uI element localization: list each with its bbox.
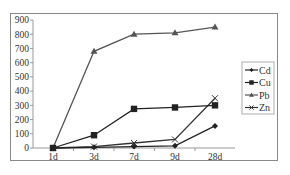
x-tick-label: 7d [129, 152, 139, 162]
square-marker-icon [172, 104, 178, 110]
line-chart: 0100200300400500600700800900 1d3d7d9d28d… [0, 0, 290, 175]
x-tick-label: 1d [48, 152, 58, 162]
x-tick-label: 28d [208, 152, 223, 162]
legend-label: Cd [259, 65, 271, 76]
y-axis: 0100200300400500600700800900 [15, 15, 33, 153]
square-marker-icon [249, 80, 253, 84]
legend-label: Cu [259, 77, 271, 88]
square-marker-icon [91, 132, 97, 138]
y-tick-label: 800 [15, 30, 30, 40]
x-marker-icon [212, 95, 218, 101]
y-tick-label: 200 [15, 115, 30, 125]
square-marker-icon [212, 102, 218, 108]
triangle-marker-icon [212, 24, 219, 30]
legend-label: Pb [259, 90, 270, 101]
diamond-marker-icon [212, 123, 218, 129]
series-zn [50, 95, 218, 151]
square-marker-icon [50, 145, 56, 151]
y-tick-label: 100 [15, 129, 30, 139]
x-axis: 1d3d7d9d28d [33, 148, 235, 162]
series-layer [50, 24, 219, 152]
y-tick-label: 0 [24, 143, 29, 153]
square-marker-icon [131, 106, 137, 112]
series-pb [50, 24, 219, 151]
y-tick-label: 900 [15, 15, 30, 25]
legend: CdCuPbZn [242, 62, 274, 114]
x-tick-label: 3d [89, 152, 99, 162]
y-tick-label: 600 [15, 58, 30, 68]
y-tick-label: 400 [15, 86, 30, 96]
diamond-marker-icon [91, 144, 97, 150]
y-tick-label: 300 [15, 101, 30, 111]
y-tick-label: 700 [15, 44, 30, 54]
legend-label: Zn [259, 102, 270, 113]
x-tick-label: 9d [170, 152, 180, 162]
y-tick-label: 500 [15, 72, 30, 82]
